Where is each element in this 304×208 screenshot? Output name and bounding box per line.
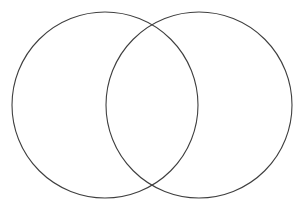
venn-diagram-svg <box>0 0 304 208</box>
venn-diagram-canvas <box>0 0 304 208</box>
